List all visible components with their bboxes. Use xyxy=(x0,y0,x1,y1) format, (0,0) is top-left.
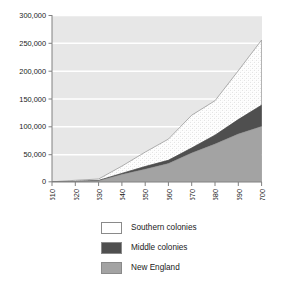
legend-label-new-england: New England xyxy=(131,262,180,274)
y-tick-label: 100,000 xyxy=(19,122,46,131)
y-axis-ticks xyxy=(49,16,53,182)
chart-legend: Southern colonies Middle colonies New En… xyxy=(101,221,271,281)
population-area-chart: 300,000 250,000 200,000 150,000 100,000 … xyxy=(0,0,282,294)
legend-item-new-england: New England xyxy=(101,261,271,274)
x-tick-label: 1650 xyxy=(141,189,150,200)
y-tick-label: 150,000 xyxy=(19,95,46,104)
y-tick-label: 0 xyxy=(42,177,46,186)
x-axis-ticks xyxy=(52,182,262,186)
x-tick-label: 1700 xyxy=(258,189,267,200)
legend-swatch-southern-colonies xyxy=(101,222,122,234)
x-tick-label: 1690 xyxy=(235,189,244,200)
legend-item-southern-colonies: Southern colonies xyxy=(101,221,271,234)
x-tick-label: 1670 xyxy=(188,189,197,200)
x-tick-label: 1640 xyxy=(118,189,127,200)
x-tick-label: 1610 xyxy=(48,189,57,200)
y-axis-tick-labels: 300,000 250,000 200,000 150,000 100,000 … xyxy=(19,11,46,186)
x-tick-label: 1680 xyxy=(211,189,220,200)
y-tick-label: 50,000 xyxy=(23,150,46,159)
legend-label-southern-colonies: Southern colonies xyxy=(131,222,197,234)
legend-swatch-middle-colonies xyxy=(101,242,122,254)
chart-plot-area: 300,000 250,000 200,000 150,000 100,000 … xyxy=(0,0,282,200)
x-tick-label: 1630 xyxy=(95,189,104,200)
y-tick-label: 300,000 xyxy=(19,11,46,20)
legend-swatch-new-england xyxy=(101,262,122,274)
x-tick-label: 1660 xyxy=(165,189,174,200)
y-tick-label: 250,000 xyxy=(19,39,46,48)
legend-label-middle-colonies: Middle colonies xyxy=(131,242,187,254)
x-axis-tick-labels: 1610 1620 1630 1640 1650 1660 1670 1680 … xyxy=(48,189,267,200)
x-tick-label: 1620 xyxy=(72,189,81,200)
legend-item-middle-colonies: Middle colonies xyxy=(101,241,271,254)
y-tick-label: 200,000 xyxy=(19,67,46,76)
